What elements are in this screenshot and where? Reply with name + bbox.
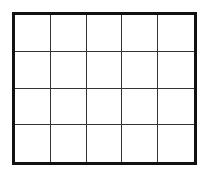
grid-cell xyxy=(51,15,87,52)
grid-cell xyxy=(122,15,158,52)
grid-cell xyxy=(15,52,51,89)
grid-frame xyxy=(12,12,197,165)
grid-cell xyxy=(158,15,194,52)
grid-cell xyxy=(158,125,194,162)
grid-cell xyxy=(158,89,194,126)
grid-cell xyxy=(87,125,123,162)
grid-cell xyxy=(87,89,123,126)
grid-cell xyxy=(122,52,158,89)
grid-cell xyxy=(87,52,123,89)
grid-cell xyxy=(122,89,158,126)
grid-cell xyxy=(122,125,158,162)
grid-cell xyxy=(87,15,123,52)
grid-table xyxy=(15,15,194,162)
grid-cell xyxy=(51,125,87,162)
grid-cell xyxy=(51,89,87,126)
grid-cell xyxy=(158,52,194,89)
grid-cell xyxy=(15,125,51,162)
grid-cell xyxy=(15,15,51,52)
grid-cell xyxy=(51,52,87,89)
grid-cell xyxy=(15,89,51,126)
